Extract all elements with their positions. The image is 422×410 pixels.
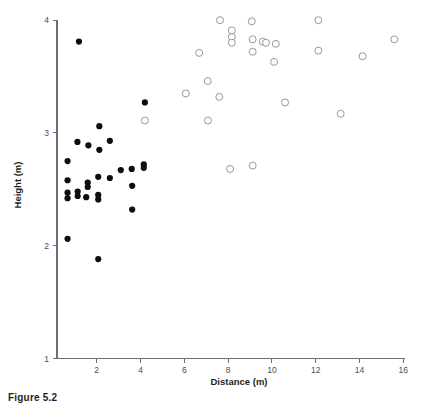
data-point-open — [196, 49, 203, 56]
data-point-filled — [129, 166, 135, 172]
x-axis-title: Distance (m) — [210, 376, 267, 387]
data-point-filled — [96, 123, 102, 129]
data-point-open — [204, 78, 211, 85]
series-open-circles — [141, 17, 397, 173]
axis-lines — [57, 20, 405, 358]
data-point-filled — [64, 195, 70, 201]
data-point-filled — [118, 167, 124, 173]
data-point-filled — [95, 174, 101, 180]
data-point-filled — [64, 190, 70, 196]
data-point-open — [391, 36, 398, 43]
data-point-open — [249, 48, 256, 55]
x-axis-ticks: 246810121416 — [94, 358, 408, 375]
y-axis-ticks: 1234 — [44, 15, 57, 363]
y-tick-label: 2 — [44, 241, 49, 251]
data-point-filled — [83, 194, 89, 200]
data-point-filled — [95, 196, 101, 202]
y-tick-label: 1 — [44, 354, 49, 364]
data-point-filled — [107, 175, 113, 181]
data-point-open — [227, 165, 234, 172]
data-point-filled — [74, 139, 80, 145]
x-tick-label: 16 — [399, 365, 409, 375]
data-point-open — [262, 39, 269, 46]
data-point-open — [248, 18, 255, 25]
data-point-open — [249, 36, 256, 43]
data-point-open — [272, 40, 279, 47]
data-point-open — [216, 93, 223, 100]
data-point-filled — [129, 206, 135, 212]
data-point-open — [217, 17, 224, 24]
data-point-open — [228, 27, 235, 34]
data-point-open — [315, 47, 322, 54]
series-filled-circles — [64, 39, 148, 263]
data-point-open — [204, 117, 211, 124]
data-point-open — [282, 99, 289, 106]
figure-container: 246810121416 1234 Distance (m) Height (m… — [0, 0, 422, 410]
x-tick-label: 2 — [94, 365, 99, 375]
data-point-filled — [75, 193, 81, 199]
data-point-filled — [96, 147, 102, 153]
x-tick-label: 6 — [182, 365, 187, 375]
data-point-filled — [107, 138, 113, 144]
x-tick-label: 12 — [311, 365, 321, 375]
data-point-filled — [142, 99, 148, 105]
data-point-open — [337, 110, 344, 117]
data-point-filled — [141, 165, 147, 171]
data-point-open — [182, 90, 189, 97]
data-point-filled — [85, 184, 91, 190]
data-point-filled — [129, 183, 135, 189]
data-point-open — [359, 53, 366, 60]
y-tick-label: 3 — [44, 128, 49, 138]
data-point-filled — [95, 256, 101, 262]
data-point-filled — [85, 142, 91, 148]
data-point-filled — [76, 39, 82, 45]
scatter-plot: 246810121416 1234 Distance (m) Height (m… — [0, 0, 422, 410]
data-point-filled — [64, 158, 70, 164]
y-tick-label: 4 — [44, 15, 49, 25]
x-tick-label: 14 — [355, 365, 365, 375]
y-axis-title: Height (m) — [12, 162, 23, 209]
data-point-filled — [64, 236, 70, 242]
data-point-open — [228, 39, 235, 46]
data-point-filled — [64, 177, 70, 183]
x-tick-label: 8 — [226, 365, 231, 375]
data-point-open — [315, 17, 322, 24]
data-point-open — [271, 58, 278, 65]
data-point-open — [141, 117, 148, 124]
data-point-open — [249, 162, 256, 169]
x-tick-label: 10 — [267, 365, 277, 375]
x-tick-label: 4 — [138, 365, 143, 375]
figure-caption: Figure 5.2 — [8, 392, 57, 403]
